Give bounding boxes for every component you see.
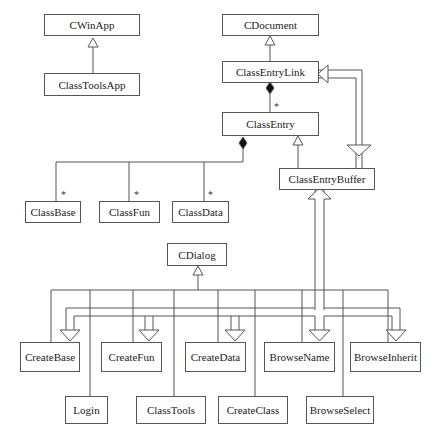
class-label: ClassToolsApp	[58, 79, 125, 91]
class-browsename[interactable]: BrowseName	[264, 342, 335, 372]
class-login[interactable]: Login	[65, 396, 108, 424]
class-classfun[interactable]: ClassFun	[99, 201, 160, 223]
class-label: CDocument	[244, 19, 297, 31]
class-classentrybuffer[interactable]: ClassEntryBuffer	[279, 168, 375, 190]
class-label: CDialog	[178, 249, 215, 261]
class-label: ClassEntryLink	[236, 66, 305, 78]
class-label: ClassTools	[147, 404, 195, 416]
class-createfun[interactable]: CreateFun	[101, 342, 162, 372]
class-label: BrowseInherit	[354, 351, 417, 363]
class-label: CreateClass	[227, 404, 280, 416]
class-label: BrowseName	[270, 351, 330, 363]
class-label: ClassEntryBuffer	[289, 173, 366, 185]
class-label: ClassData	[178, 206, 223, 218]
class-label: Login	[73, 404, 99, 416]
class-classtoolsapp[interactable]: ClassToolsApp	[44, 73, 140, 96]
class-classbase[interactable]: ClassBase	[25, 201, 81, 223]
class-createdata[interactable]: CreateData	[185, 342, 246, 372]
class-label: ClassBase	[30, 206, 75, 218]
multiplicity-label: *	[134, 189, 139, 200]
generalization-arrow-icon	[88, 38, 98, 47]
multiplicity-label: *	[61, 189, 66, 200]
class-cdialog[interactable]: CDialog	[167, 243, 227, 266]
class-browseselect[interactable]: BrowseSelect	[306, 396, 374, 424]
multiplicity-label: *	[208, 189, 213, 200]
class-createbase[interactable]: CreateBase	[20, 342, 80, 372]
class-createclass[interactable]: CreateClass	[218, 396, 288, 424]
class-label: CWinApp	[70, 19, 115, 31]
class-cwinapp[interactable]: CWinApp	[44, 14, 140, 36]
multiplicity-label: *	[274, 101, 279, 112]
class-cdocument[interactable]: CDocument	[222, 14, 319, 36]
class-classentry[interactable]: ClassEntry	[222, 112, 319, 136]
class-label: CreateBase	[25, 351, 75, 363]
class-label: ClassEntry	[246, 118, 294, 130]
class-classentrylink[interactable]: ClassEntryLink	[222, 61, 319, 83]
class-label: CreateData	[191, 351, 240, 363]
class-classtools[interactable]: ClassTools	[136, 396, 206, 424]
class-label: BrowseSelect	[310, 404, 370, 416]
class-browseinherit[interactable]: BrowseInherit	[350, 342, 421, 372]
class-label: CreateFun	[109, 351, 155, 363]
class-classdata[interactable]: ClassData	[172, 201, 229, 223]
class-label: ClassFun	[109, 206, 150, 218]
